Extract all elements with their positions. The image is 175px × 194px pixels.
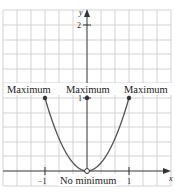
axes bbox=[3, 15, 166, 186]
annotation-maximum-center: Maximum bbox=[66, 84, 110, 95]
y-axis-label: y bbox=[78, 8, 83, 17]
annotation-maximum-right: Maximum bbox=[124, 84, 168, 95]
point-origin-open bbox=[85, 169, 90, 174]
point-max-left bbox=[43, 96, 47, 100]
x-axis-label: x bbox=[168, 174, 173, 183]
tick-label-x-1: 1 bbox=[127, 177, 131, 186]
annotation-no-minimum: No minimum bbox=[60, 175, 116, 186]
point-max-right bbox=[127, 96, 131, 100]
tick-label-y-1: 1 bbox=[78, 94, 82, 103]
point-max-center bbox=[85, 96, 89, 100]
tick-label-x-neg1: −1 bbox=[38, 177, 47, 186]
annotation-maximum-left: Maximum bbox=[7, 84, 51, 95]
parabola-chart: x y −1 1 2 1 Maximum Maximum Maximum No … bbox=[0, 0, 175, 194]
tick-label-y-2: 2 bbox=[77, 21, 81, 30]
